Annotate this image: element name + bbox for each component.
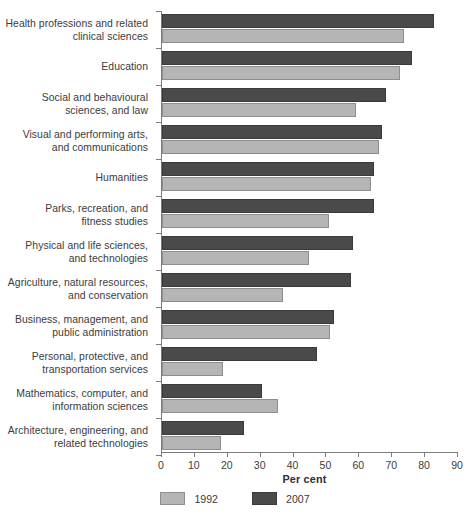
category-label: Education	[0, 49, 155, 86]
y-axis-tick	[156, 48, 161, 49]
x-axis-tick-label: 10	[188, 459, 200, 471]
category-label-text: Business, management, andpublic administ…	[15, 314, 148, 339]
bar-2007	[162, 347, 317, 361]
x-axis-line	[161, 452, 458, 453]
category-label: Agriculture, natural resources,and conse…	[0, 271, 155, 308]
legend-label-2007: 2007	[286, 493, 310, 505]
x-axis-tick-label: 30	[254, 459, 266, 471]
bar-1992	[162, 362, 223, 376]
x-axis-tick	[457, 452, 458, 457]
category-label-text: Visual and performing arts,and communica…	[23, 129, 148, 154]
bar-2007	[162, 162, 374, 176]
category-label: Personal, protective, andtransportation …	[0, 345, 155, 382]
bar-1992	[162, 66, 400, 80]
x-axis-tick	[424, 452, 425, 457]
x-axis-tick-label: 60	[352, 459, 364, 471]
category-label-text: Physical and life sciences,and technolog…	[25, 240, 148, 265]
x-axis-tick	[227, 452, 228, 457]
category-label: Architecture, engineering, andrelated te…	[0, 419, 155, 456]
category-label-text: Health professions and relatedclinical s…	[6, 18, 148, 43]
legend-item-1992: 1992	[160, 492, 218, 505]
bar-1992	[162, 436, 221, 450]
category-axis-labels: Health professions and relatedclinical s…	[0, 12, 155, 456]
y-axis-tick	[156, 159, 161, 160]
x-axis-title-wrapper: Per cent	[0, 473, 470, 485]
bar-group	[162, 197, 462, 234]
bar-2007	[162, 125, 382, 139]
x-axis-tick-label: 70	[385, 459, 397, 471]
y-axis-tick	[156, 381, 161, 382]
legend-swatch-1992	[160, 492, 185, 505]
x-axis-tick-label: 90	[451, 459, 463, 471]
bar-2007	[162, 88, 386, 102]
grouped-bar-chart: Health professions and relatedclinical s…	[0, 0, 470, 515]
category-label-text: Parks, recreation, andfitness studies	[45, 203, 148, 228]
bar-1992	[162, 288, 283, 302]
bar-1992	[162, 214, 329, 228]
bar-1992	[162, 325, 330, 339]
bar-1992	[162, 399, 278, 413]
category-label: Physical and life sciences,and technolog…	[0, 234, 155, 271]
bar-group	[162, 234, 462, 271]
bar-group	[162, 160, 462, 197]
y-axis-tick	[156, 344, 161, 345]
legend-item-2007: 2007	[252, 492, 310, 505]
category-label-text: Architecture, engineering, andrelated te…	[8, 425, 148, 450]
bar-1992	[162, 103, 356, 117]
bar-group	[162, 308, 462, 345]
category-label-text: Social and behaviouralsciences, and law	[42, 92, 148, 117]
y-axis-tick	[156, 122, 161, 123]
y-axis-tick	[156, 196, 161, 197]
y-axis-tick	[156, 85, 161, 86]
bar-2007	[162, 384, 262, 398]
bar-group	[162, 49, 462, 86]
x-axis-tick-label: 50	[320, 459, 332, 471]
bar-group	[162, 345, 462, 382]
category-label-text: Agriculture, natural resources,and conse…	[8, 277, 148, 302]
bar-group	[162, 123, 462, 160]
x-axis-tick	[358, 452, 359, 457]
bars-container	[162, 12, 462, 452]
y-axis-tick	[156, 233, 161, 234]
legend-label-1992: 1992	[194, 493, 218, 505]
plot-area: Health professions and relatedclinical s…	[0, 0, 470, 470]
x-axis-title: Per cent	[282, 473, 326, 485]
bar-1992	[162, 177, 371, 191]
category-label-text: Education	[101, 61, 148, 73]
bar-2007	[162, 51, 412, 65]
y-axis-tick	[156, 307, 161, 308]
bar-1992	[162, 140, 379, 154]
category-label: Social and behaviouralsciences, and law	[0, 86, 155, 123]
bar-group	[162, 12, 462, 49]
x-axis-tick	[325, 452, 326, 457]
bar-2007	[162, 273, 351, 287]
x-axis-tick-label: 0	[158, 459, 164, 471]
chart-legend: 1992 2007	[0, 492, 470, 505]
x-axis-tick	[161, 452, 162, 457]
bar-2007	[162, 236, 353, 250]
legend-swatch-2007	[252, 492, 277, 505]
x-axis-tick	[391, 452, 392, 457]
x-axis-tick	[194, 452, 195, 457]
category-label: Health professions and relatedclinical s…	[0, 12, 155, 49]
bar-1992	[162, 251, 309, 265]
bar-group	[162, 271, 462, 308]
bar-2007	[162, 421, 244, 435]
bar-2007	[162, 14, 434, 28]
bar-2007	[162, 199, 374, 213]
category-label-text: Mathematics, computer, andinformation sc…	[16, 388, 148, 413]
y-axis-tick	[156, 270, 161, 271]
category-label: Visual and performing arts,and communica…	[0, 123, 155, 160]
x-axis-tick	[293, 452, 294, 457]
bar-group	[162, 382, 462, 419]
x-axis-tick-label: 80	[418, 459, 430, 471]
category-label: Parks, recreation, andfitness studies	[0, 197, 155, 234]
bar-group	[162, 86, 462, 123]
category-label-text: Personal, protective, andtransportation …	[32, 351, 148, 376]
y-axis-tick	[156, 418, 161, 419]
x-axis-tick-label: 40	[287, 459, 299, 471]
bar-2007	[162, 310, 334, 324]
category-label: Humanities	[0, 160, 155, 197]
category-label: Business, management, andpublic administ…	[0, 308, 155, 345]
category-label-text: Humanities	[96, 172, 148, 184]
